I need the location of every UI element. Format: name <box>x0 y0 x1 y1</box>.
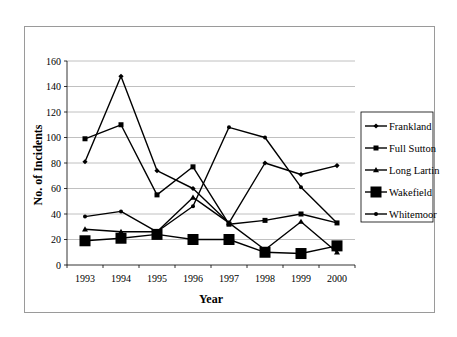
y-tick-label: 60 <box>51 183 61 194</box>
y-tick-label: 140 <box>46 81 61 92</box>
x-tick-label: 1993 <box>75 273 95 284</box>
square-marker <box>83 136 88 141</box>
circle-marker <box>119 209 123 213</box>
large-square-marker <box>296 248 307 259</box>
square-marker <box>191 164 196 169</box>
y-tick-label: 20 <box>51 234 61 245</box>
series-whitemoor <box>83 125 339 234</box>
square-marker <box>374 146 379 151</box>
series-line <box>85 76 337 223</box>
y-tick-label: 160 <box>46 56 61 67</box>
y-axis-title: No. of Incidents <box>31 124 45 205</box>
series-wakefield <box>80 229 343 259</box>
circle-marker <box>374 212 378 216</box>
diamond-marker <box>82 159 87 164</box>
x-axis: 19931994199519961997199819992000 <box>67 265 355 284</box>
y-tick-label: 120 <box>46 107 61 118</box>
diamond-marker <box>154 168 159 173</box>
legend-label: Whitemoor <box>389 209 437 220</box>
series-frankland <box>82 74 339 226</box>
large-square-marker <box>260 247 271 258</box>
legend-label: Full Sutton <box>389 143 437 154</box>
circle-marker <box>335 221 339 225</box>
square-marker <box>299 212 304 217</box>
circle-marker <box>155 230 159 234</box>
large-square-marker <box>80 235 91 246</box>
square-marker <box>119 122 124 127</box>
legend-item: Wakefield <box>365 187 433 198</box>
large-square-marker <box>224 234 235 245</box>
legend-label: Long Lartin <box>389 165 440 176</box>
legend-label: Frankland <box>389 121 432 132</box>
y-tick-label: 100 <box>46 132 61 143</box>
x-axis-title: Year <box>199 292 224 306</box>
x-tick-label: 2000 <box>327 273 347 284</box>
y-tick-label: 40 <box>51 209 61 220</box>
large-square-marker <box>116 233 127 244</box>
circle-marker <box>299 185 303 189</box>
square-marker <box>155 192 160 197</box>
square-marker <box>263 218 268 223</box>
y-tick-label: 80 <box>51 158 61 169</box>
line-chart: 020406080100120140160 199319941995199619… <box>0 0 457 337</box>
large-square-marker <box>332 240 343 251</box>
y-tick-label: 0 <box>56 260 61 271</box>
circle-marker <box>263 136 267 140</box>
x-tick-label: 1995 <box>147 273 167 284</box>
x-tick-label: 1996 <box>183 273 203 284</box>
legend: FranklandFull SuttonLong LartinWakefield… <box>361 112 440 222</box>
circle-marker <box>191 204 195 208</box>
diamond-marker <box>298 172 303 177</box>
y-axis: 020406080100120140160 <box>46 56 67 271</box>
series-layer <box>80 74 343 259</box>
large-square-marker <box>371 187 382 198</box>
x-tick-label: 1999 <box>291 273 311 284</box>
triangle-marker <box>190 194 196 199</box>
diamond-marker <box>118 74 123 79</box>
legend-label: Wakefield <box>389 187 433 198</box>
x-tick-label: 1998 <box>255 273 275 284</box>
triangle-marker <box>298 219 304 224</box>
diamond-marker <box>334 163 339 168</box>
x-tick-label: 1994 <box>111 273 131 284</box>
x-tick-label: 1997 <box>219 273 239 284</box>
large-square-marker <box>188 234 199 245</box>
circle-marker <box>83 215 87 219</box>
series-long-lartin <box>82 194 340 254</box>
circle-marker <box>227 125 231 129</box>
